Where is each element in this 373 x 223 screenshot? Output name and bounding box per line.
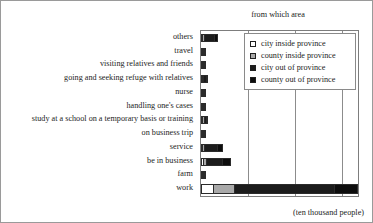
bar-segment — [222, 158, 230, 166]
bar-segment — [217, 144, 223, 152]
stacked-bar[interactable] — [201, 48, 206, 56]
y-axis-label: nurse — [175, 87, 193, 97]
bar-row — [201, 141, 358, 155]
bar-segment — [204, 61, 206, 69]
legend-swatch-icon — [250, 65, 256, 71]
stacked-bar[interactable] — [201, 116, 208, 124]
bar-row — [201, 114, 358, 128]
legend-item[interactable]: city out of province — [250, 62, 350, 73]
bar-segment — [204, 144, 217, 152]
stacked-bar[interactable] — [201, 61, 202, 69]
bar-segment — [204, 89, 206, 97]
legend-label: county out of province — [261, 75, 335, 85]
y-axis-label: handling one's cases — [126, 101, 193, 111]
legend: city inside provincecounty inside provin… — [244, 33, 356, 90]
stacked-bar[interactable] — [201, 144, 223, 152]
y-axis-label: visiting relatives and friends — [100, 59, 193, 69]
bar-segment — [206, 158, 222, 166]
y-axis-label: farm — [178, 169, 193, 179]
stacked-bar[interactable] — [201, 75, 208, 83]
bar-row — [201, 100, 358, 114]
bar-segment — [204, 48, 206, 56]
bar-segment — [234, 184, 334, 194]
bar-segment — [204, 103, 206, 111]
legend-swatch-icon — [250, 77, 256, 83]
figure-container: from which area otherstravelvisiting rel… — [0, 0, 373, 223]
unit-note: (ten thousand people) — [293, 208, 364, 218]
bar-segment — [204, 34, 214, 42]
legend-label: city inside province — [261, 39, 326, 49]
legend-item[interactable]: county out of province — [250, 74, 350, 85]
stacked-bar[interactable] — [201, 158, 231, 166]
legend-label: county inside province — [261, 51, 336, 61]
legend-item[interactable]: county inside province — [250, 50, 350, 61]
y-axis-label: service — [170, 142, 193, 152]
legend-label: city out of province — [261, 63, 325, 73]
bar-segment — [204, 171, 206, 179]
stacked-bar[interactable] — [201, 171, 206, 179]
legend-item[interactable]: city inside province — [250, 38, 350, 49]
bar-row — [201, 155, 358, 169]
y-axis-label: work — [176, 183, 193, 193]
stacked-bar[interactable] — [201, 34, 218, 42]
bar-segment — [204, 130, 206, 138]
y-axis-label: travel — [174, 46, 193, 56]
legend-swatch-icon — [250, 41, 256, 47]
chart-title: from which area — [197, 10, 359, 20]
y-axis-label: study at a school on a temporary basis o… — [32, 114, 193, 124]
bar-segment — [213, 184, 234, 194]
legend-swatch-icon — [250, 53, 256, 59]
y-axis-label: others — [173, 32, 193, 42]
bar-row — [201, 127, 358, 141]
stacked-bar[interactable] — [201, 130, 204, 138]
y-axis-label: be in business — [147, 156, 193, 166]
y-axis-category-labels: otherstravelvisiting relatives and frien… — [5, 30, 197, 197]
stacked-bar[interactable] — [201, 184, 358, 194]
bar-segment — [206, 116, 208, 124]
bar-row — [201, 182, 358, 196]
y-axis-label: going and seeking refuge with relatives — [64, 73, 193, 83]
y-axis-label: on business trip — [142, 128, 193, 138]
bar-segment — [334, 184, 358, 194]
bar-segment — [206, 75, 208, 83]
bar-segment — [214, 34, 219, 42]
bar-row — [201, 169, 358, 183]
bar-segment — [201, 184, 213, 194]
